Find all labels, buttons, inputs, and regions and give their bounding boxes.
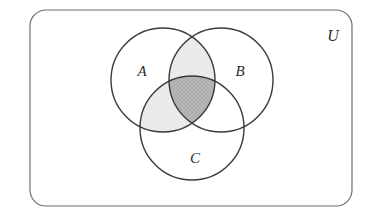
set-label-c: C — [190, 150, 201, 166]
set-label-b: B — [235, 63, 244, 79]
universe-label-u: U — [327, 27, 340, 44]
venn-diagram-svg: A B C U — [0, 0, 381, 215]
venn-diagram-canvas: A B C U — [0, 0, 381, 215]
set-label-a: A — [136, 63, 147, 79]
